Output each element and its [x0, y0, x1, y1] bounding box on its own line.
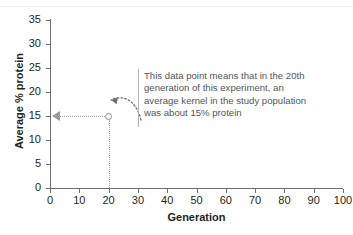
callout-line-1: This data point means that in the 20th: [144, 70, 344, 82]
x-axis-title: Generation: [50, 211, 343, 223]
callout-annotation: This data point means that in the 20th g…: [144, 70, 344, 120]
x-tick-40: [167, 189, 168, 193]
x-tick-label-60: 60: [211, 195, 241, 206]
chart-canvas: 05101520253035 0102030405060708090100 Av…: [0, 0, 353, 235]
y-tick-label-35: 35: [11, 14, 41, 25]
x-tick-label-90: 90: [299, 195, 329, 206]
x-tick-60: [226, 189, 227, 193]
x-tick-70: [255, 189, 256, 193]
x-tick-label-80: 80: [269, 195, 299, 206]
y-tick-10: [46, 140, 50, 141]
y-tick-label-0: 0: [11, 182, 41, 193]
x-tick-50: [197, 189, 198, 193]
x-tick-label-30: 30: [123, 195, 153, 206]
guide-line-horizontal: [60, 116, 109, 117]
y-tick-25: [46, 68, 50, 69]
x-tick-label-100: 100: [328, 195, 353, 206]
y-tick-5: [46, 164, 50, 165]
x-tick-30: [138, 189, 139, 193]
x-tick-10: [79, 189, 80, 193]
guide-line-vertical: [109, 120, 110, 188]
x-tick-90: [314, 189, 315, 193]
y-tick-35: [46, 20, 50, 21]
x-tick-label-70: 70: [240, 195, 270, 206]
page-top-rule: [0, 6, 353, 7]
x-tick-100: [343, 189, 344, 193]
callout-line-4: was about 15% protein: [144, 107, 344, 119]
y-tick-15: [46, 116, 50, 117]
y-axis-title: Average % protein: [13, 41, 25, 161]
x-tick-label-20: 20: [94, 195, 124, 206]
y-tick-30: [46, 44, 50, 45]
callout-line-3: average kernel in the study population: [144, 95, 344, 107]
guide-arrowhead-left-icon: [52, 111, 60, 121]
x-tick-label-50: 50: [182, 195, 212, 206]
x-tick-0: [50, 189, 51, 193]
y-tick-20: [46, 92, 50, 93]
callout-line-2: generation of this experiment, an: [144, 82, 344, 94]
x-tick-80: [284, 189, 285, 193]
x-tick-label-0: 0: [35, 195, 65, 206]
x-tick-20: [109, 189, 110, 193]
x-tick-label-10: 10: [64, 195, 94, 206]
callout-left-rule: [138, 69, 139, 127]
y-axis-line: [50, 19, 51, 189]
x-tick-label-40: 40: [152, 195, 182, 206]
